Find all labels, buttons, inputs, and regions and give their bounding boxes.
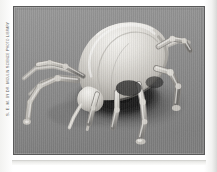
figure-frame (13, 6, 205, 155)
figure-page: S. E. M. by Dr. Moulin Science Photo Lib… (0, 0, 217, 172)
photo-credit-margin: S. E. M. by Dr. Moulin Science Photo Lib… (0, 0, 13, 172)
page-right-edge-shading (212, 0, 217, 172)
photo-credit-text: S. E. M. by Dr. Moulin Science Photo Lib… (5, 0, 11, 139)
bottom-rule (12, 160, 206, 165)
sem-tick-micrograph (14, 7, 204, 154)
